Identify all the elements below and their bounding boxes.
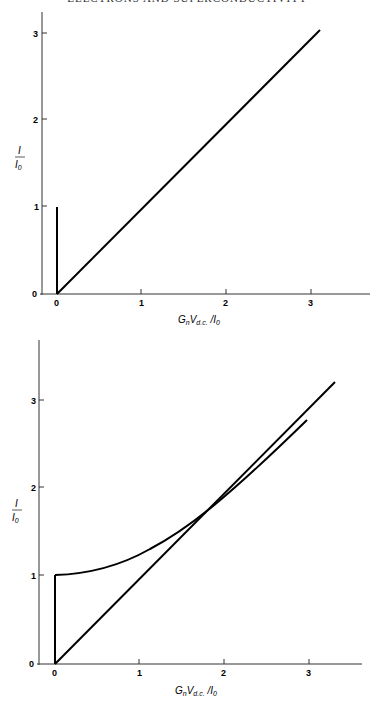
top-x-tick-0: 0 [54,298,59,308]
top-x-tick-2: 2 [223,298,228,308]
top-y-tick-3: 3 [33,29,38,39]
bottom-ohmic-line [55,382,335,664]
svg-text:I: I [15,498,18,509]
svg-text:GnVd.c. /I0: GnVd.c. /I0 [175,685,217,697]
bottom-x-tick-0: 0 [52,668,57,678]
top-chart: 3 2 1 0 0 1 2 3 I I0 GnVd.c. /I0 3 2 1 0 [0,0,375,702]
bottom-y-tick-2: 2 [31,483,36,493]
top-x-tick-3: 3 [308,298,313,308]
bottom-y-tick-3: 3 [31,396,36,406]
top-x-axis-label: GnVd.c. /I0 [178,314,220,326]
bottom-y-tick-labels: 3 2 1 0 [29,396,36,669]
bottom-y-axis-label: I I0 [12,498,22,524]
top-y-tick-2: 2 [33,115,38,125]
bottom-series [55,382,335,664]
bottom-x-tick-labels: 0 1 2 3 [52,668,311,678]
bottom-resistive-curve [55,420,307,575]
top-x-tick-labels: 0 1 2 3 [54,298,313,308]
top-x-tick-1: 1 [139,298,144,308]
svg-text:I: I [18,145,21,156]
svg-text:GnVd.c. /I0: GnVd.c. /I0 [178,314,220,326]
bottom-y-tick-1: 1 [31,571,36,581]
bottom-x-tick-2: 2 [221,668,226,678]
bottom-axes [37,340,362,665]
bottom-x-axis-label: GnVd.c. /I0 [175,685,217,697]
svg-text:I0: I0 [12,512,19,524]
top-y-tick-0: 0 [32,289,37,299]
bottom-x-tick-3: 3 [306,668,311,678]
top-y-tick-1: 1 [34,202,39,212]
svg-text:I0: I0 [15,159,22,171]
top-y-tick-labels: 3 2 1 0 [32,29,39,299]
top-y-axis-label: I I0 [15,145,25,171]
bottom-y-tick-0: 0 [29,659,34,669]
top-series [57,30,320,294]
top-ohmic-line [57,30,320,294]
top-axes [40,12,370,295]
bottom-x-tick-1: 1 [137,668,142,678]
